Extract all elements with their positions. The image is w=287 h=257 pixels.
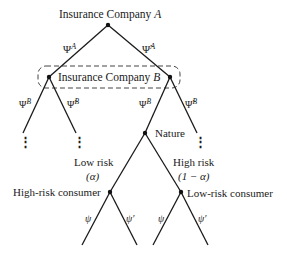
label-edge-a-left: ΨA (63, 42, 76, 55)
label-edge-br-left: ΨB (139, 97, 151, 110)
label-edge-bl-right: Ψ̃B (67, 97, 79, 110)
label-high-risk-prob: (1 − α) (178, 170, 210, 183)
edge-a-right (108, 25, 170, 77)
edge-a-left (49, 25, 108, 77)
node-insurance-b-right (168, 75, 172, 79)
node-nature (143, 131, 147, 135)
node-insurance-b-left (47, 75, 51, 79)
ellipsis-bl-left: ⋮ (19, 134, 32, 149)
label-edge-hr-right: ψ′ (126, 213, 135, 224)
label-nature: Nature (155, 127, 185, 139)
node-high-risk-consumer (108, 190, 112, 194)
label-edge-bl-left: ΨB (19, 97, 31, 110)
game-tree-diagram: Insurance Company A Insurance Company B … (0, 0, 287, 257)
node-insurance-a (106, 23, 110, 27)
label-edge-lr-right: ψ′ (198, 213, 207, 224)
label-insurance-a: Insurance Company A (59, 8, 162, 21)
ellipsis-bl-right: ⋮ (73, 134, 86, 149)
label-high-risk: High risk (173, 156, 215, 168)
label-edge-lr-left: ψ (158, 213, 165, 224)
label-low-risk-prob: (α) (86, 170, 99, 183)
ellipsis-br-right: ⋮ (194, 134, 207, 149)
label-low-risk: Low risk (74, 156, 114, 168)
label-edge-br-right: Ψ̃B (185, 97, 197, 110)
label-low-risk-consumer: Low-risk consumer (187, 187, 273, 199)
label-high-risk-consumer: High-risk consumer (13, 186, 101, 198)
node-low-risk-consumer (179, 190, 183, 194)
edge-nature-left (110, 133, 145, 192)
label-insurance-b: Insurance Company B (58, 71, 160, 84)
label-edge-hr-left: ψ (85, 213, 92, 224)
label-edge-a-right: Ψ̃A (142, 42, 155, 55)
